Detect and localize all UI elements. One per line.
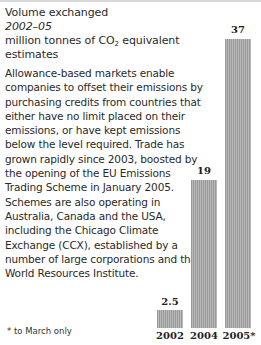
chart-unit-note: estimates <box>5 48 179 62</box>
bar-2002 <box>157 310 183 328</box>
value-label-2002: 2.5 <box>153 296 187 307</box>
value-label-2005: 37 <box>221 24 255 35</box>
description-text: Allowance-based markets enable companies… <box>5 66 205 280</box>
chart-title: Volume exchanged <box>5 6 179 20</box>
category-label-2004: 2004 <box>187 330 221 341</box>
bar-2005 <box>225 39 251 328</box>
chart-title-block: Volume exchanged 2002–05 million tonnes … <box>5 6 179 62</box>
bar-2004 <box>191 180 217 328</box>
category-label-2005: 2005* <box>222 330 256 341</box>
top-rule <box>0 0 261 2</box>
chart-period: 2002–05 <box>5 20 179 34</box>
value-label-2004: 19 <box>187 165 221 176</box>
category-label-2002: 2002 <box>153 330 187 341</box>
chart-unit: million tonnes of CO2 equivalent <box>5 34 179 48</box>
footnote: * to March only <box>7 326 72 336</box>
